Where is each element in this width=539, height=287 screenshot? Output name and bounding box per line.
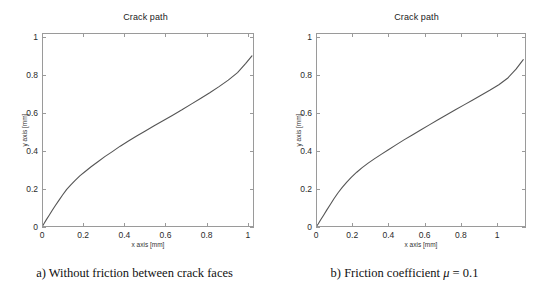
xaxis-label-b: x axis [mm] (316, 241, 526, 248)
xtick-label: 0.8 (455, 230, 467, 240)
yaxis-label-a: y axis [mm] (21, 114, 28, 147)
xaxis-label-a: x axis [mm] (42, 241, 254, 248)
xtick-mark (352, 223, 353, 227)
ytick-mark (522, 37, 526, 38)
xtick-label: 0.6 (160, 230, 172, 240)
xtick-mark (42, 223, 43, 227)
ytick-mark (316, 151, 320, 152)
caption-a-text: a) Without friction between crack faces (36, 266, 233, 280)
xtick-mark (165, 223, 166, 227)
yaxis-label-b: y axis [mm] (295, 114, 302, 147)
xtick-mark (388, 33, 389, 37)
ytick-label: 0 (33, 222, 38, 232)
caption-a: a) Without friction between crack faces (0, 266, 269, 281)
panel-a: Crack path 00.20.40.60.8100.20.40.60.81 … (0, 0, 269, 287)
xtick-mark (497, 33, 498, 37)
ytick-mark (522, 227, 526, 228)
caption-b-prefix: b) Friction coefficient (331, 266, 444, 280)
ytick-mark (42, 151, 46, 152)
ytick-label: 0.4 (300, 146, 312, 156)
panel-b: Crack path 00.20.40.60.8100.20.40.60.81 … (270, 0, 539, 287)
xtick-mark (316, 223, 317, 227)
xtick-mark (124, 33, 125, 37)
ytick-label: 1 (33, 32, 38, 42)
xtick-label: 0 (314, 230, 319, 240)
xtick-label: 0.2 (346, 230, 358, 240)
ytick-mark (522, 113, 526, 114)
ytick-mark (250, 151, 254, 152)
xtick-mark (124, 223, 125, 227)
ytick-mark (316, 75, 320, 76)
ytick-label: 0.6 (300, 108, 312, 118)
ytick-label: 0.2 (26, 184, 38, 194)
xtick-mark (83, 223, 84, 227)
ytick-mark (522, 151, 526, 152)
xtick-mark (207, 223, 208, 227)
ytick-mark (250, 75, 254, 76)
ytick-mark (250, 113, 254, 114)
ytick-label: 1 (307, 32, 312, 42)
caption-b: b) Friction coefficient μ = 0.1 (270, 266, 539, 281)
ytick-mark (42, 189, 46, 190)
xtick-mark (461, 33, 462, 37)
xtick-mark (248, 33, 249, 37)
xtick-mark (165, 33, 166, 37)
xtick-label: 0.4 (382, 230, 394, 240)
xtick-label: 0.2 (77, 230, 89, 240)
xtick-label: 1 (245, 230, 250, 240)
ytick-mark (42, 227, 46, 228)
ytick-label: 0.6 (26, 108, 38, 118)
xtick-label: 1 (495, 230, 500, 240)
xtick-mark (83, 33, 84, 37)
figure-root: Crack path 00.20.40.60.8100.20.40.60.81 … (0, 0, 539, 287)
xtick-mark (425, 223, 426, 227)
ytick-mark (42, 113, 46, 114)
xtick-mark (248, 223, 249, 227)
plot-area-b: 00.20.40.60.8100.20.40.60.81 x axis [mm]… (316, 33, 526, 227)
xtick-mark (207, 33, 208, 37)
caption-b-suffix: = 0.1 (449, 266, 478, 280)
xtick-mark (497, 223, 498, 227)
xtick-mark (388, 223, 389, 227)
xtick-mark (425, 33, 426, 37)
xtick-label: 0 (40, 230, 45, 240)
xtick-label: 0.8 (201, 230, 213, 240)
plot-curve-a (42, 33, 254, 227)
xtick-mark (316, 33, 317, 37)
plot-curve-b (316, 33, 526, 227)
ytick-label: 0.8 (300, 70, 312, 80)
ytick-label: 0 (307, 222, 312, 232)
xtick-mark (461, 223, 462, 227)
ytick-mark (316, 113, 320, 114)
plot-area-a: 00.20.40.60.8100.20.40.60.81 x axis [mm]… (42, 33, 254, 227)
xtick-label: 0.4 (118, 230, 130, 240)
ytick-mark (522, 189, 526, 190)
ytick-mark (42, 75, 46, 76)
chart-title-b: Crack path (270, 12, 539, 22)
ytick-mark (316, 227, 320, 228)
ytick-label: 0.2 (300, 184, 312, 194)
ytick-label: 0.8 (26, 70, 38, 80)
ytick-mark (250, 37, 254, 38)
xtick-mark (352, 33, 353, 37)
xtick-mark (42, 33, 43, 37)
chart-title-a: Crack path (0, 12, 269, 22)
ytick-mark (250, 189, 254, 190)
xtick-label: 0.6 (419, 230, 431, 240)
ytick-label: 0.4 (26, 146, 38, 156)
ytick-mark (316, 189, 320, 190)
ytick-mark (250, 227, 254, 228)
ytick-mark (522, 75, 526, 76)
